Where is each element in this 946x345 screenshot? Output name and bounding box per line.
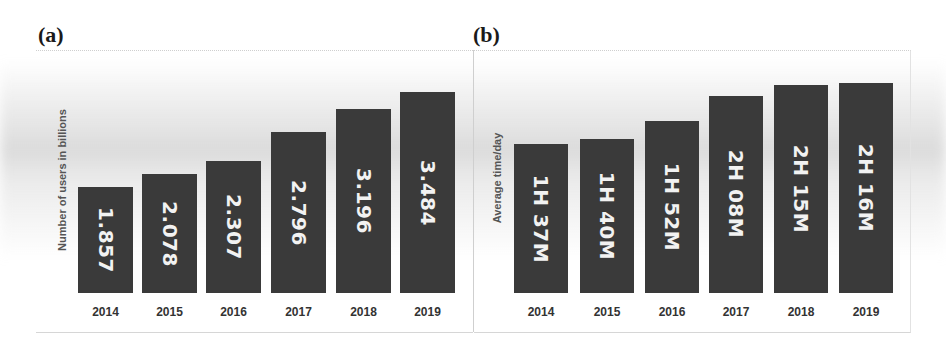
x-tick-label: 2015 <box>577 305 637 319</box>
x-tick-label: 2016 <box>204 305 264 319</box>
bar-2015: 2.078 <box>142 174 197 293</box>
bar-2019: 3.484 <box>400 92 455 293</box>
bar-value-label: 3.196 <box>352 168 376 234</box>
x-tick-label: 2016 <box>642 305 702 319</box>
panel-b-y-axis-label: Average time/day <box>491 133 503 224</box>
bar-value-label: 3.484 <box>416 160 440 226</box>
bar-value-label: 1.857 <box>94 207 118 273</box>
bar-2018: 2H 15M <box>774 85 828 293</box>
bar-value-label: 1H 37M <box>529 174 553 262</box>
bar-value-label: 2H 16M <box>854 144 878 232</box>
bar-2014: 1H 37M <box>514 144 568 293</box>
x-tick-label: 2019 <box>398 305 458 319</box>
bar-value-label: 2H 15M <box>789 145 813 233</box>
bar-value-label: 2.078 <box>158 201 182 267</box>
panel-b-label: (b) <box>473 22 500 48</box>
bar-2014: 1.857 <box>78 187 133 293</box>
x-tick-label: 2018 <box>334 305 394 319</box>
bar-2019: 2H 16M <box>839 83 893 293</box>
bar-2016: 2.307 <box>206 161 261 293</box>
bar-value-label: 1H 52M <box>660 163 684 251</box>
bar-2016: 1H 52M <box>645 121 699 293</box>
bar-value-label: 2.796 <box>287 180 311 246</box>
x-tick-label: 2017 <box>706 305 766 319</box>
x-tick-label: 2018 <box>771 305 831 319</box>
panel-a-label: (a) <box>38 22 64 48</box>
bar-2015: 1H 40M <box>580 139 634 293</box>
x-tick-label: 2014 <box>76 305 136 319</box>
bar-value-label: 2H 08M <box>724 150 748 238</box>
x-tick-label: 2019 <box>836 305 896 319</box>
bar-2017: 2.796 <box>271 132 326 293</box>
x-tick-label: 2015 <box>140 305 200 319</box>
bar-value-label: 2.307 <box>222 194 246 260</box>
x-tick-label: 2014 <box>511 305 571 319</box>
bar-2017: 2H 08M <box>709 96 763 293</box>
bar-value-label: 1H 40M <box>595 172 619 260</box>
x-tick-label: 2017 <box>269 305 329 319</box>
bar-2018: 3.196 <box>336 109 391 293</box>
panel-a-y-axis-label: Number of users in billions <box>56 109 68 251</box>
